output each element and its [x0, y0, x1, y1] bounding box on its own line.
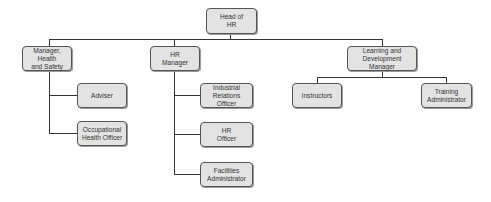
connector-to-hr-officer: [174, 134, 200, 135]
node-learning-development-manager: Learning and Development Manager: [347, 46, 417, 71]
org-chart: Head of HR Manager, Health and Safety Ad…: [0, 0, 491, 202]
node-adviser: Adviser: [77, 83, 127, 108]
connector-ld-bar: [317, 77, 447, 78]
node-training-administrator: Training Administrator: [421, 83, 472, 108]
node-manager-health-safety: Manager, Health and Safety: [22, 46, 72, 71]
node-head-of-hr: Head of HR: [206, 8, 257, 34]
node-instructors: Instructors: [292, 83, 342, 108]
connector-to-hs-manager: [49, 39, 50, 46]
node-facilities-administrator: Facilities Administrator: [200, 162, 253, 187]
connector-to-facilities: [174, 174, 200, 175]
connector-to-adviser: [49, 95, 77, 96]
node-hr-manager: HR Manager: [150, 46, 200, 71]
connector-to-industrial-relations: [174, 95, 200, 96]
connector-to-occupational-health: [49, 133, 77, 134]
node-industrial-relations-officer: Industrial Relations Officer: [200, 83, 253, 108]
connector-hs-spine: [49, 71, 50, 134]
connector-top-bar: [49, 39, 383, 40]
connector-to-hr-manager: [174, 39, 175, 46]
connector-hr-spine: [174, 71, 175, 175]
connector-to-ld-manager: [382, 39, 383, 46]
node-hr-officer: HR Officer: [200, 122, 253, 147]
node-occupational-health-officer: Occupational Health Officer: [77, 121, 127, 146]
